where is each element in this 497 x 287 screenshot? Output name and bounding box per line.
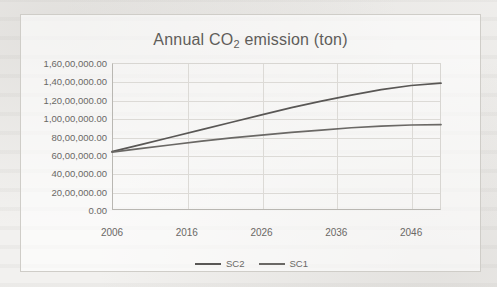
series-line-sc1 [112, 125, 441, 153]
x-axis-tick-label: 2026 [250, 227, 272, 238]
x-axis-tick-label: 2046 [400, 227, 422, 238]
legend-label-sc2: SC2 [226, 258, 244, 269]
y-axis-tick-label: 60,00,000.00 [52, 149, 107, 160]
y-axis-tick-label: 20,00,000.00 [52, 186, 107, 197]
chart-legend: SC2SC1 [21, 258, 482, 269]
series-line-sc2 [112, 83, 441, 151]
x-axis-tick-label: 2036 [325, 227, 347, 238]
y-axis-tick-label: 1,40,00,000.00 [44, 76, 107, 87]
y-axis-tick-labels: 0.0020,00,000.0040,00,000.0060,00,000.00… [21, 63, 107, 210]
y-axis-tick-label: 0.00 [89, 205, 108, 216]
series-lines [112, 63, 441, 210]
legend-label-sc1: SC1 [290, 258, 308, 269]
y-axis-tick-label: 1,20,00,000.00 [44, 94, 107, 105]
legend-swatch-sc1 [259, 263, 285, 265]
y-axis-tick-label: 80,00,000.00 [52, 131, 107, 142]
chart-title-main: Annual CO [153, 31, 233, 48]
chart-frame: Annual CO2 emission (ton) 0.0020,00,000.… [20, 14, 481, 272]
y-axis-tick-label: 1,00,00,000.00 [44, 113, 107, 124]
legend-item-sc1[interactable]: SC1 [259, 258, 308, 269]
x-axis-tick-label: 2016 [176, 227, 198, 238]
x-axis-tick-label: 2006 [101, 227, 123, 238]
chart-title-tail: emission (ton) [240, 31, 348, 48]
legend-item-sc2[interactable]: SC2 [195, 258, 244, 269]
y-axis-tick-label: 1,60,00,000.00 [44, 58, 107, 69]
chart-title-subscript: 2 [233, 38, 239, 50]
chart-title: Annual CO2 emission (ton) [21, 31, 480, 49]
legend-swatch-sc2 [195, 263, 221, 265]
plot-area-wrapper [112, 63, 441, 210]
y-axis-tick-label: 40,00,000.00 [52, 168, 107, 179]
x-axis-tick-labels: 20062016202620362046 [112, 227, 441, 243]
